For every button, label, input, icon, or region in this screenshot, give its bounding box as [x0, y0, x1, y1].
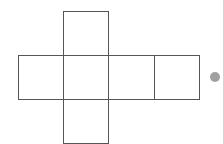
net-square-left	[19, 56, 64, 100]
net-square-top	[64, 12, 109, 56]
net-square-right	[109, 56, 155, 100]
cube-net-diagram	[0, 0, 223, 144]
net-square-far-right	[155, 56, 200, 100]
net-square-bottom	[64, 100, 109, 144]
net-square-center	[64, 56, 109, 100]
marker-dot	[210, 72, 220, 82]
